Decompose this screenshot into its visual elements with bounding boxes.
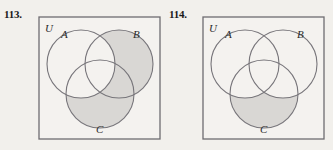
- universe-label: U: [209, 22, 218, 34]
- circle-a-label: A: [60, 28, 68, 40]
- circle-c-label: C: [96, 123, 104, 135]
- circle-c-label: C: [260, 123, 268, 135]
- universe-label: U: [45, 22, 54, 34]
- exercise-113: 113.: [0, 0, 167, 150]
- circle-b-label: B: [297, 28, 304, 40]
- exercise-number-114: 114.: [169, 9, 187, 20]
- circle-b-label: B: [133, 28, 140, 40]
- exercise-page: 113.: [0, 0, 333, 150]
- exercise-number-113: 113.: [4, 9, 22, 20]
- venn-svg-114: U A B C: [200, 14, 328, 143]
- exercise-114: 114.: [166, 0, 333, 150]
- venn-diagram-114: U A B C: [200, 14, 328, 143]
- circle-a-label: A: [224, 28, 232, 40]
- venn-svg-113: U A B C: [36, 14, 164, 143]
- venn-diagram-113: U A B C: [36, 14, 164, 143]
